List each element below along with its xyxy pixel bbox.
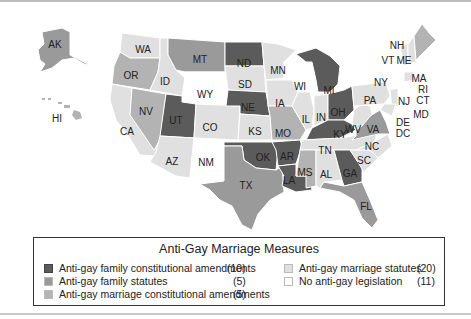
svg-text:MO: MO xyxy=(275,128,291,139)
svg-text:WV: WV xyxy=(345,124,361,135)
svg-text:NM: NM xyxy=(198,157,214,168)
svg-text:AR: AR xyxy=(280,151,294,162)
svg-text:NH: NH xyxy=(390,40,404,51)
legend-swatch xyxy=(284,264,293,273)
svg-text:HI: HI xyxy=(52,113,62,124)
svg-text:ME: ME xyxy=(397,55,412,66)
svg-text:GA: GA xyxy=(343,168,358,179)
svg-text:IL: IL xyxy=(302,114,311,125)
legend-count: (20) xyxy=(417,262,436,274)
svg-text:WY: WY xyxy=(197,89,213,100)
svg-text:MS: MS xyxy=(298,167,313,178)
svg-text:FL: FL xyxy=(360,201,372,212)
svg-text:MA: MA xyxy=(412,73,427,84)
svg-text:NV: NV xyxy=(139,106,153,117)
map-legend: Anti-Gay Marriage Measures Anti-gay fami… xyxy=(33,237,445,306)
legend-count: (5) xyxy=(233,288,246,300)
svg-text:IN: IN xyxy=(316,112,326,123)
svg-text:OR: OR xyxy=(124,70,139,81)
legend-title: Anti-Gay Marriage Measures xyxy=(34,242,444,256)
legend-item-family-statutes: Anti-gay family statutes xyxy=(44,275,168,287)
svg-text:UT: UT xyxy=(169,115,182,126)
svg-text:AK: AK xyxy=(48,39,62,50)
legend-swatch xyxy=(44,290,53,299)
svg-text:MD: MD xyxy=(413,109,429,120)
svg-text:WI: WI xyxy=(294,81,306,92)
svg-text:ND: ND xyxy=(237,58,251,69)
svg-text:IA: IA xyxy=(275,98,285,109)
svg-text:MI: MI xyxy=(323,85,334,96)
legend-label: No anti-gay legislation xyxy=(299,275,402,287)
svg-text:VT: VT xyxy=(382,55,395,66)
legend-swatch xyxy=(284,277,293,286)
us-map: AK HI WA OR CA NV ID MT WY UT AZ CO NM N… xyxy=(0,0,471,235)
legend-label: Anti-gay marriage statutes xyxy=(299,262,422,274)
svg-text:NJ: NJ xyxy=(398,96,410,107)
svg-text:NC: NC xyxy=(365,141,379,152)
legend-count: (11) xyxy=(417,275,435,287)
svg-text:ID: ID xyxy=(160,76,170,87)
svg-text:CT: CT xyxy=(416,95,429,106)
svg-text:CA: CA xyxy=(120,126,134,137)
svg-text:TN: TN xyxy=(318,145,331,156)
svg-text:LA: LA xyxy=(283,175,296,186)
svg-text:SC: SC xyxy=(357,155,371,166)
legend-swatch xyxy=(44,277,53,286)
state-AK xyxy=(38,28,90,72)
svg-text:SD: SD xyxy=(238,79,252,90)
svg-text:PA: PA xyxy=(364,95,377,106)
svg-text:NE: NE xyxy=(241,102,255,113)
svg-text:DC: DC xyxy=(396,128,410,139)
legend-count: (5) xyxy=(233,275,246,287)
svg-text:OH: OH xyxy=(331,107,346,118)
svg-text:VA: VA xyxy=(367,124,380,135)
legend-count: (10) xyxy=(227,262,246,274)
legend-label: Anti-gay family statutes xyxy=(59,275,168,287)
svg-text:WA: WA xyxy=(135,44,151,55)
svg-text:CO: CO xyxy=(203,122,218,133)
svg-text:RI: RI xyxy=(418,84,428,95)
svg-text:KS: KS xyxy=(248,126,262,137)
state-HI xyxy=(42,98,82,120)
svg-text:NY: NY xyxy=(374,77,388,88)
legend-item-family-constitutional: Anti-gay family constitutional amendment… xyxy=(44,262,256,274)
svg-text:OK: OK xyxy=(256,152,271,163)
state-ME xyxy=(414,24,436,60)
legend-item-no-legislation: No anti-gay legislation xyxy=(284,275,402,287)
svg-text:MT: MT xyxy=(193,54,207,65)
bottom-rule xyxy=(0,313,471,315)
svg-text:MN: MN xyxy=(270,65,286,76)
legend-swatch xyxy=(44,264,53,273)
legend-item-marriage-statutes: Anti-gay marriage statutes xyxy=(284,262,422,274)
svg-text:AZ: AZ xyxy=(166,156,179,167)
svg-text:AL: AL xyxy=(320,169,333,180)
svg-text:DE: DE xyxy=(396,117,410,128)
svg-text:TX: TX xyxy=(240,180,253,191)
